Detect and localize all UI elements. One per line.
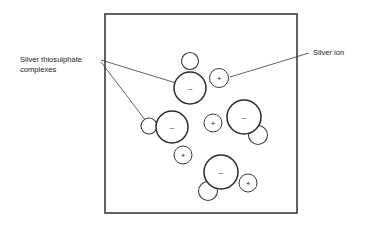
ion-middle-charge-sign: +: [211, 119, 216, 128]
label-silver-ion: Silver ion: [313, 48, 344, 57]
ion-lower-left-charge-sign: +: [181, 151, 186, 160]
silver-thiosulphate-diagram: – – – – + + +: [0, 0, 365, 230]
ion-lower-left: +: [174, 146, 192, 164]
solution-box: [105, 14, 297, 213]
figure-page: – – – – + + +: [0, 0, 365, 230]
complex-left-sub-circle: [141, 118, 157, 134]
ion-bottom-right: +: [239, 174, 257, 192]
ion-top-right-charge-sign: +: [217, 74, 222, 83]
ion-bottom-right-charge-sign: +: [246, 179, 251, 188]
complex-bottom-charge-sign: –: [219, 168, 224, 177]
label-complexes: Silver thiosulphate complexes: [20, 55, 82, 74]
complex-top-charge-sign: –: [188, 84, 193, 93]
ion-middle: +: [204, 114, 222, 132]
label-complexes-line2: complexes: [20, 65, 56, 74]
label-complexes-line1: Silver thiosulphate: [20, 55, 82, 64]
ion-top-right: +: [210, 69, 229, 88]
label-silver-ion-line1: Silver ion: [313, 48, 344, 57]
complex-left-charge-sign: –: [170, 123, 175, 132]
complex-top-sub-circle: [182, 53, 199, 70]
complex-right-charge-sign: –: [242, 113, 247, 122]
